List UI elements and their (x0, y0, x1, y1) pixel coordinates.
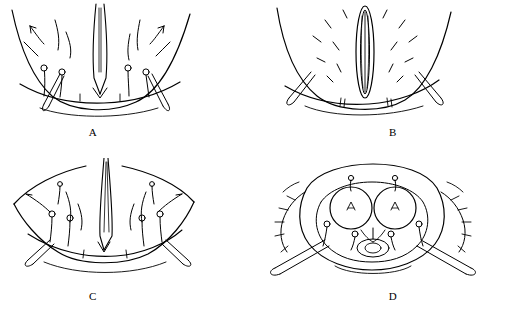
panel-c-label: C (83, 290, 103, 302)
panel-a-label: A (83, 126, 103, 138)
panel-b-drawing (255, 2, 475, 128)
panel-d-label: D (383, 290, 403, 302)
panel-a-drawing (0, 2, 210, 128)
figure-plate: A (0, 0, 510, 320)
panel-d-drawing (255, 158, 490, 288)
panel-c-drawing (0, 158, 215, 288)
panel-b-label: B (383, 126, 403, 138)
